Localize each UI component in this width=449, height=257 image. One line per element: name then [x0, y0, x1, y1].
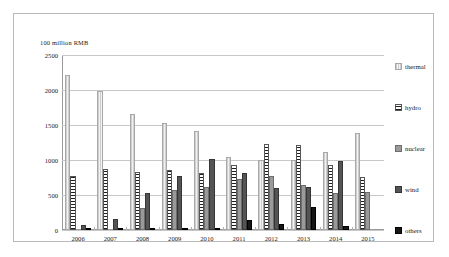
chart-legend: thermalhydronuclearwindothers	[395, 55, 449, 235]
x-axis-tick-label: 2013	[297, 235, 310, 242]
legend-swatch-icon	[395, 63, 402, 70]
x-axis-tick-label: 2008	[136, 235, 149, 242]
x-axis-tick-label: 2015	[361, 235, 374, 242]
legend-swatch-icon	[395, 104, 402, 111]
bar-group	[159, 55, 191, 230]
x-axis-tick-label: 2007	[104, 235, 117, 242]
bar-wind-2008	[145, 193, 150, 230]
legend-item-nuclear[interactable]: nuclear	[395, 145, 425, 152]
bar-group	[352, 55, 384, 230]
bar-others-2009	[182, 228, 187, 230]
legend-item-label: thermal	[405, 63, 426, 70]
bar-others-2006	[86, 228, 91, 230]
y-axis-tick-label: 2500	[45, 52, 58, 59]
legend-swatch-icon	[395, 227, 402, 234]
legend-item-label: hydro	[405, 104, 421, 111]
y-axis-tick-label: 500	[48, 192, 58, 199]
bar-group	[255, 55, 287, 230]
bar-others-2010	[215, 228, 220, 230]
legend-item-label: wind	[405, 186, 419, 193]
bar-group	[223, 55, 255, 230]
bar-wind-2010	[209, 159, 214, 230]
x-axis-tick-mark	[352, 227, 353, 230]
x-axis-tick-label: 2014	[329, 235, 342, 242]
legend-item-label: nuclear	[405, 145, 425, 152]
x-axis-tick-mark	[159, 227, 160, 230]
legend-item-wind[interactable]: wind	[395, 186, 419, 193]
bar-nuclear-2015	[365, 192, 370, 231]
x-axis-tick-label: 2009	[168, 235, 181, 242]
bar-others-2012	[279, 224, 284, 230]
bar-group	[320, 55, 352, 230]
bar-group	[126, 55, 158, 230]
plot-inner: 0500100015002000250020062007200820092010…	[62, 55, 384, 230]
y-axis-unit-label: 100 million RMB	[40, 39, 88, 46]
x-axis-tick-label: 2006	[72, 235, 85, 242]
y-axis-tick-label: 1500	[45, 122, 58, 129]
x-axis-tick-label: 2012	[265, 235, 278, 242]
legend-swatch-icon	[395, 145, 402, 152]
legend-item-others[interactable]: others	[395, 227, 422, 234]
bar-others-2014	[343, 226, 348, 230]
bar-group	[287, 55, 319, 230]
bar-group	[62, 55, 94, 230]
x-axis-tick-mark	[191, 227, 192, 230]
bar-others-2007	[118, 228, 123, 230]
bar-others-2013	[311, 207, 316, 230]
x-axis-tick-label: 2010	[200, 235, 213, 242]
x-axis-tick-mark	[223, 227, 224, 230]
bar-others-2008	[150, 228, 155, 230]
chart-screenshot: 100 million RMB 050010001500200025002006…	[0, 0, 449, 257]
x-axis-tick-mark	[126, 227, 127, 230]
y-axis-tick-label: 2000	[45, 87, 58, 94]
x-axis-tick-label: 2011	[233, 235, 246, 242]
chart-frame: 100 million RMB 050010001500200025002006…	[13, 13, 434, 242]
bar-wind-2009	[177, 176, 182, 230]
plot-area: 0500100015002000250020062007200820092010…	[62, 55, 384, 230]
bar-group	[191, 55, 223, 230]
grid-line	[62, 230, 384, 231]
legend-item-thermal[interactable]: thermal	[395, 63, 426, 70]
y-axis-tick-label: 1000	[45, 157, 58, 164]
x-axis-tick-mark	[320, 227, 321, 230]
x-axis-tick-mark	[94, 227, 95, 230]
x-axis-tick-mark	[287, 227, 288, 230]
bar-hydro-2006	[70, 176, 75, 230]
bar-hydro-2007	[103, 169, 108, 230]
x-axis-tick-mark	[255, 227, 256, 230]
legend-swatch-icon	[395, 186, 402, 193]
y-axis-tick-label: 0	[55, 227, 58, 234]
legend-item-hydro[interactable]: hydro	[395, 104, 421, 111]
bar-others-2011	[247, 220, 252, 230]
bar-group	[94, 55, 126, 230]
bar-wind-2014	[338, 161, 343, 230]
legend-item-label: others	[405, 227, 422, 234]
